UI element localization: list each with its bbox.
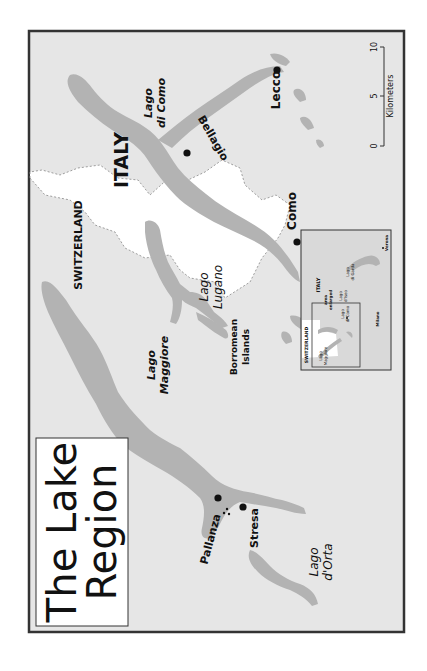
label-borromean-2: Islands [241,329,251,365]
label-lago-maggiore-2: Maggiore [158,335,171,394]
label-lecco: Lecco [269,71,283,109]
inset-label-switzerland: SWITZERLAND [304,326,309,363]
town-dot-como [293,238,300,245]
inset-label-maggiore-2: Maggiore [323,346,328,365]
label-lago-di-como-1: Lago [142,88,155,118]
label-lago-lugano-2: Lugano [211,265,225,309]
label-lago-maggiore-1: Lago [145,350,158,380]
lake-region-map: The Lake Region SWITZERLAND ITALY Lago M… [0,0,427,671]
inset-label-italy: ITALY [315,277,321,292]
inset-label-garda-2: di Garda [350,263,355,281]
label-lago-orta-2: d'Orta [321,543,335,580]
inset-label-milano: Milano [375,311,380,326]
label-stresa: Stresa [248,508,261,548]
label-lago-lugano-1: Lago [197,273,211,302]
label-como: Como [285,192,299,230]
inset-label-verona: Verona [384,235,389,251]
inset-label-como-2: di Como [345,305,350,322]
scale-unit-label: Kilometers [386,75,395,118]
town-dot-bellagio [183,149,190,156]
town-dot-stresa [239,503,246,510]
scale-tick-0: 0 [370,143,379,148]
label-borromean-1: Borromean [229,319,239,375]
scale-tick-10: 10 [370,42,379,52]
label-lago-di-como-2: di Como [155,77,168,128]
title-line-2: Region [79,464,125,601]
town-dot-pallanza [214,494,221,501]
label-lago-orta-1: Lago [307,548,321,577]
label-italy: ITALY [110,132,132,188]
inset-label-area-2: enlarged [328,290,333,310]
scale-tick-5: 5 [370,93,379,98]
inset-map: SWITZERLAND ITALY area enlarged Lago Mag… [301,230,391,370]
label-switzerland: SWITZERLAND [72,200,85,289]
inset-label-iseo-2: d'Iseo [343,290,348,302]
